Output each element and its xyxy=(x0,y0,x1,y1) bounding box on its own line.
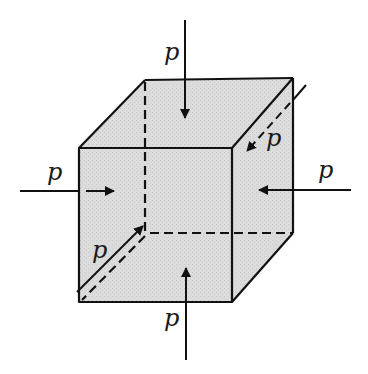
label-bottom: p xyxy=(164,304,179,332)
pressure-cube-diagram: p p p p p p xyxy=(0,0,368,374)
arrow-back-shaft xyxy=(293,85,306,100)
label-front: p xyxy=(92,236,107,264)
label-top: p xyxy=(164,38,179,66)
label-left: p xyxy=(47,158,62,186)
label-right: p xyxy=(318,156,333,184)
label-back: p xyxy=(266,124,281,152)
